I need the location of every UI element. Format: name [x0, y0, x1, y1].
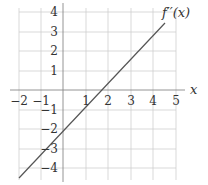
y-tick: −3	[40, 142, 58, 156]
curve-label: f′′(x)	[161, 5, 190, 20]
x-axis-label: x	[190, 82, 198, 97]
x-tick: −2	[10, 94, 28, 108]
y-tick: 1	[50, 64, 58, 78]
x-tick: 2	[104, 94, 112, 108]
x-tick: 5	[172, 94, 180, 108]
y-tick: −2	[40, 122, 58, 136]
y-tick: 4	[50, 5, 58, 19]
y-tick: −4	[40, 161, 58, 175]
y-tick: −1	[40, 103, 58, 117]
chart-canvas: −2 −1 1 2 3 4 5 4 3 2 1 −1 −2 −3 −4 x f′…	[0, 0, 208, 185]
x-tick: 3	[127, 94, 135, 108]
y-tick: 2	[50, 44, 58, 58]
x-tick: 1	[82, 94, 90, 108]
x-tick: 4	[149, 94, 157, 108]
y-tick: 3	[50, 25, 58, 39]
x-tick-labels: −2 −1 1 2 3 4 5	[10, 94, 180, 108]
